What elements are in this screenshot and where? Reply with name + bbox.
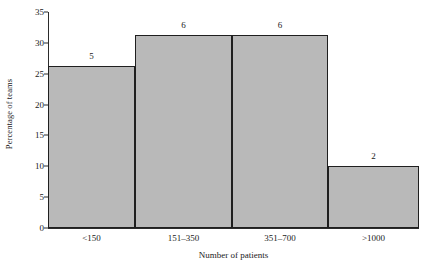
x-axis-line	[48, 228, 419, 229]
y-axis-tick-label: 30	[35, 38, 44, 48]
y-axis-tick-label: 15	[35, 130, 44, 140]
y-axis-tick-label: 25	[35, 69, 44, 79]
x-axis-tick-label: >1000	[362, 233, 385, 243]
y-axis-tick-label: 35	[35, 7, 44, 17]
y-axis-tick-mark	[44, 135, 48, 136]
bar-value-label: 6	[181, 20, 186, 30]
bar-value-label: 5	[89, 51, 94, 61]
x-axis-tick-label: 351–700	[264, 233, 296, 243]
y-axis-tick-mark	[44, 166, 48, 167]
histogram-bar	[135, 35, 232, 228]
y-axis-tick-label: 10	[35, 161, 44, 171]
x-axis-title: Number of patients	[48, 250, 419, 260]
y-axis-title-text: Percentage of teams	[4, 79, 14, 149]
y-axis-tick-mark	[44, 197, 48, 198]
y-axis-tick-labels: 05101520253035	[18, 0, 44, 270]
y-axis-tick-mark	[44, 228, 48, 229]
histogram-bar	[328, 166, 419, 228]
y-axis-tick-mark	[44, 42, 48, 43]
y-axis-tick-label: 20	[35, 100, 44, 110]
bar-value-label: 2	[371, 151, 376, 161]
y-axis-tick-mark	[44, 12, 48, 13]
y-axis-title: Percentage of teams	[0, 0, 18, 228]
y-axis-tick-mark	[44, 104, 48, 105]
x-axis-tick-label: 151–350	[168, 233, 200, 243]
bar-value-label: 6	[278, 20, 283, 30]
x-axis-tick-label: <150	[82, 233, 101, 243]
histogram-bar	[232, 35, 328, 228]
histogram-bar	[48, 66, 135, 228]
y-axis-tick-mark	[44, 73, 48, 74]
histogram-figure: Percentage of teams 05101520253035 Numbe…	[0, 0, 432, 270]
plot-area	[48, 12, 419, 228]
